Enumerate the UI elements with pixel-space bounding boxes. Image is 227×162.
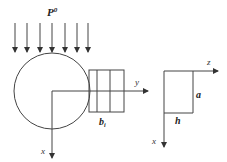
cross-section-rect	[164, 71, 193, 113]
x-axis-right-label: x	[151, 136, 156, 146]
side-a-label: a	[196, 89, 201, 100]
side-h-label: h	[175, 115, 181, 126]
block-label: bi	[99, 116, 106, 128]
y-axis-label: y	[134, 77, 139, 87]
x-axis-label: x	[40, 146, 45, 156]
load-arrows	[15, 23, 88, 52]
z-axis-label: z	[206, 57, 211, 67]
diagram-canvas: P0 y x bi z x a h	[0, 0, 227, 162]
load-label: P0	[47, 6, 58, 18]
